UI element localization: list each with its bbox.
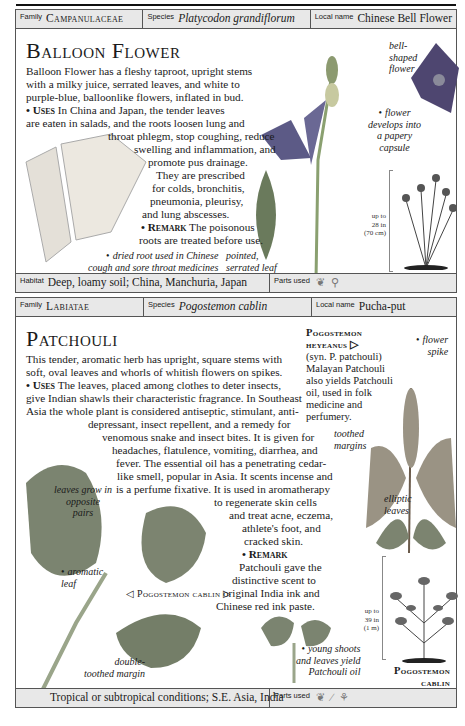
uses-line: The leaves, placed among clothes to dete…	[58, 379, 281, 391]
caption-dried-root: dried root used in Chinese cough and sor…	[88, 250, 218, 273]
height-bracket	[389, 170, 393, 272]
classification-bar: Family Campanulaceae Species Platycodon …	[16, 10, 456, 29]
habitat-bar: Habitat Deep, loamy soil; China, Manchur…	[16, 273, 456, 292]
caption-pointed-leaf: pointed, serrated leaf	[226, 250, 277, 273]
caption-flower-spike: flower spike	[416, 334, 448, 357]
classification-bar: Family Labiatae Species Pogostemon cabli…	[16, 298, 456, 317]
family-value: Labiatae	[46, 300, 89, 312]
uses-line: swelling and inflammation, and	[26, 143, 276, 156]
root-icon: ⚲	[331, 276, 339, 289]
description-line: soft, oval leaves and whorls of whitish …	[26, 366, 333, 379]
uses-heading: • Uses	[26, 104, 55, 116]
illustration-label-pogostemon-cablin: Pogostemon cablin	[394, 665, 450, 689]
parts-used-label: Parts used	[274, 691, 310, 700]
caption-double-toothed-margin: double- toothed margin	[84, 656, 145, 679]
habitat-label: Habitat	[20, 276, 44, 285]
habitat-cell: Habitat Deep, loamy soil; China, Manchur…	[16, 274, 270, 292]
family-label: Family	[20, 300, 42, 309]
herb-entry-patchouli: Family Labiatae Species Pogostemon cabli…	[15, 297, 457, 708]
uses-line: athlete's foot, and	[26, 522, 333, 535]
uses-line: headaches, flatulence, vomiting, diarrhe…	[26, 444, 333, 457]
local-name-label: Local name	[315, 12, 354, 21]
uses-line: In China and Japan, the tender leaves	[58, 104, 225, 116]
leaf-icon: ❦	[316, 691, 325, 704]
species-value: Platycodon grandiflorum	[178, 12, 295, 24]
description-line: purple-blue, balloonlike flowers, inflat…	[26, 91, 276, 104]
uses-line: depressant, insect repellent, and a reme…	[26, 418, 333, 431]
pogostemon-cablin-plant-drawing	[386, 563, 461, 663]
remark-line: roots are treated before use.	[26, 234, 276, 247]
local-name-value: Chinese Bell Flower	[357, 12, 452, 24]
uses-heading: • Uses	[26, 379, 55, 391]
remark-line: The poisonous	[189, 221, 255, 233]
species-cell: Species Platycodon grandiflorum	[143, 10, 310, 28]
remark-heading: • Remark	[141, 221, 186, 233]
uses-line: give Indian shawls their characteristic …	[26, 392, 333, 405]
remark-line: Chinese red ink paste.	[26, 600, 333, 613]
uses-line: for colds, bronchitis,	[26, 182, 276, 195]
label-pogostemon-cablin: ◁ Pogostemon cablin ▷	[126, 588, 231, 600]
uses-line: cracked skin.	[26, 535, 333, 548]
family-value: Campanulaceae	[46, 12, 123, 24]
species-label: Species	[148, 300, 175, 309]
parts-used-cell: Parts used ❦ ⚲	[270, 274, 456, 292]
species-label: Species	[147, 12, 174, 21]
species-cell: Species Pogostemon cablin	[144, 298, 312, 316]
description-text: Balloon Flower has a fleshy taproot, upr…	[26, 65, 276, 247]
plant-height-label: up to 28 in (70 cm)	[356, 212, 386, 238]
uses-line: like smell, popular in Asia. It scents i…	[26, 470, 333, 483]
local-name-cell: Local name Chinese Bell Flower	[311, 10, 456, 28]
family-cell: Family Labiatae	[16, 298, 144, 316]
balloon-flower-plant-drawing	[391, 170, 461, 270]
uses-line: venomous snake and insect bites. It is g…	[26, 431, 333, 444]
local-name-label: Local name	[316, 300, 355, 309]
side-note-pogostemon-heyeanus: Pogostemon heyeanus ▷ (syn. P. patchouli…	[306, 327, 393, 423]
remark-heading: • Remark	[242, 548, 287, 560]
habitat-value: Deep, loamy soil; China, Manchuria, Japa…	[48, 276, 247, 288]
top-rule	[16, 4, 456, 6]
caption-toothed-margins: toothed margins	[334, 428, 366, 451]
description-line: Balloon Flower has a fleshy taproot, upr…	[26, 65, 276, 78]
parts-used-label: Parts used	[274, 276, 310, 285]
uses-line: promote pus drainage.	[26, 156, 276, 169]
habitat-cell: Tropical or subtropical conditions; S.E.…	[16, 689, 270, 707]
caption-papery-capsule: flower develops into a papery capsule	[368, 107, 421, 153]
plant-height-label: up to 39 in (1 m)	[346, 607, 379, 633]
uses-line: are eaten in salads, and the roots loose…	[26, 117, 276, 130]
parts-used-cell: Parts used ❦ ∕ ⚘	[270, 689, 456, 707]
uses-line: throat phlegm, stop coughing, reduce	[26, 130, 276, 143]
uses-line: pneumonia, pleurisy,	[26, 195, 276, 208]
uses-line: fever. The essential oil has a penetrati…	[26, 457, 333, 470]
caption-aromatic-leaf: aromatic leaf	[61, 566, 103, 589]
stem-icon: ∕	[331, 691, 333, 703]
species-value: Pogostemon cablin	[179, 300, 267, 312]
uses-line: They are prescribed	[26, 169, 276, 182]
caption-opposite-pairs: leaves grow in opposite pairs	[54, 484, 112, 519]
leaf-icon: ❦	[316, 276, 325, 289]
habitat-bar: Tropical or subtropical conditions; S.E.…	[16, 688, 456, 707]
local-name-value: Pucha-put	[359, 300, 406, 312]
herb-title: Balloon Flower	[26, 38, 180, 64]
local-name-cell: Local name Pucha-put	[312, 298, 456, 316]
flower-icon: ⚘	[339, 691, 349, 704]
caption-young-shoots: young shoots and leaves yield Patchouli …	[296, 643, 360, 678]
description-line: with a milky juice, serrated leaves, and…	[26, 78, 276, 91]
herb-title: Patchouli	[26, 326, 118, 352]
caption-bell-shaped-flower: bell- shaped flower	[389, 40, 417, 75]
description-line: This tender, aromatic herb has upright, …	[26, 353, 333, 366]
uses-line: and lung abscesses.	[26, 208, 276, 221]
family-label: Family	[20, 12, 42, 21]
herb-entry-balloon-flower: Family Campanulaceae Species Platycodon …	[15, 9, 457, 293]
height-bracket	[382, 556, 386, 660]
caption-elliptic-leaves: elliptic leaves	[384, 493, 412, 516]
family-cell: Family Campanulaceae	[16, 10, 143, 28]
habitat-value: Tropical or subtropical conditions; S.E.…	[50, 691, 284, 703]
uses-line: Asia the whole plant is considered antis…	[26, 405, 333, 418]
